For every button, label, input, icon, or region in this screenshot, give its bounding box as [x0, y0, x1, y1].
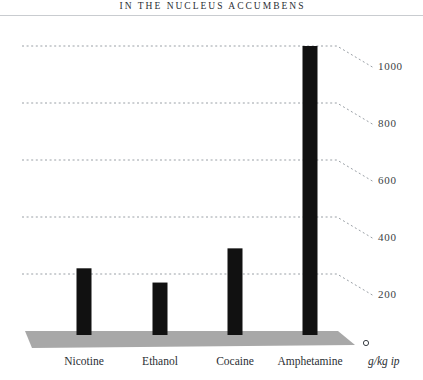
bar-ethanol [153, 283, 168, 335]
gridline [22, 103, 374, 125]
gridline [22, 46, 374, 68]
axis-unit-label: g/kg ip [368, 355, 400, 367]
x-tick-label-amphetamine: Amphetamine [277, 355, 342, 367]
bars-group [77, 46, 318, 335]
chart-canvas [0, 16, 423, 380]
x-tick-label-nicotine: Nicotine [64, 355, 104, 367]
bar-cocaine [228, 248, 243, 335]
gridlines-group [22, 46, 374, 296]
gridline [22, 217, 374, 239]
y-tick-label: 600 [378, 174, 397, 186]
bar-nicotine [77, 268, 92, 335]
x-tick-label-ethanol: Ethanol [142, 355, 178, 367]
y-tick-label: 1000 [378, 60, 403, 72]
y-tick-label: 400 [378, 231, 397, 243]
gridline [22, 274, 374, 296]
plot-area: 02004006008001000 NicotineEthanolCocaine… [0, 16, 423, 380]
chart-figure: IN THE NUCLEUS ACCUMBENS 020040060080010… [0, 0, 423, 380]
x-tick-label-cocaine: Cocaine [216, 355, 254, 367]
zero-tick-marker [363, 340, 368, 345]
bar-amphetamine [303, 46, 318, 335]
gridline [22, 160, 374, 182]
y-tick-label: 200 [378, 288, 397, 300]
y-tick-label: 800 [378, 117, 397, 129]
page-title: IN THE NUCLEUS ACCUMBENS [0, 1, 423, 11]
